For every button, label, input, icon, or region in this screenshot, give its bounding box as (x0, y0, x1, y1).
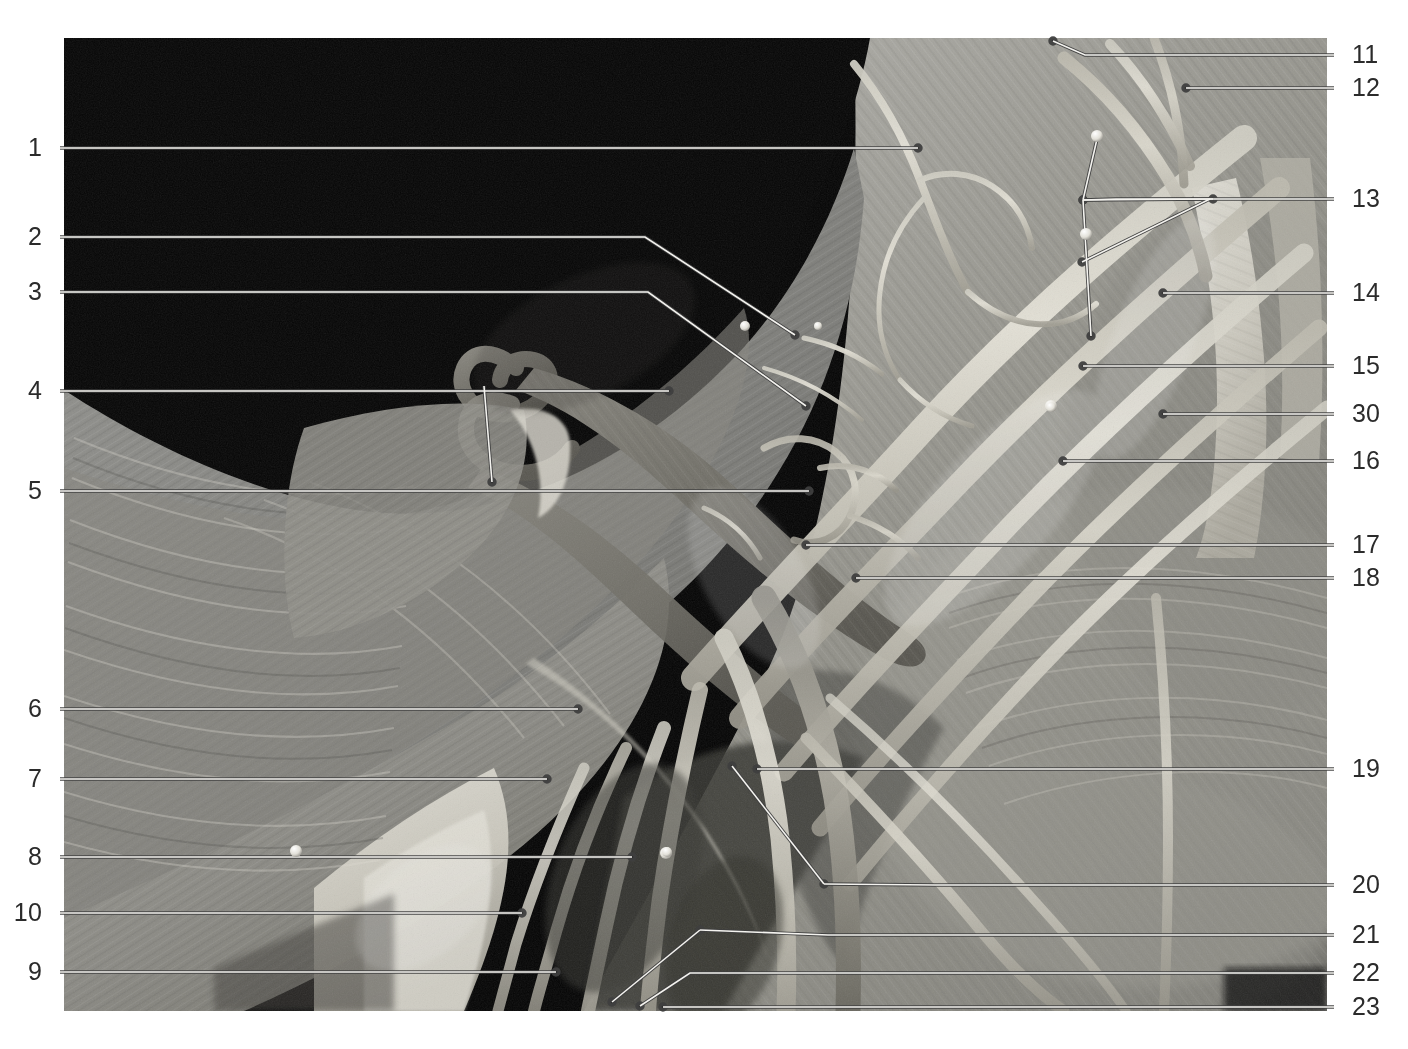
label-14: 14 (1352, 280, 1380, 305)
label-17: 17 (1352, 532, 1380, 557)
label-9: 9 (28, 959, 42, 984)
label-22: 22 (1352, 960, 1380, 985)
label-2: 2 (28, 224, 42, 249)
anatomical-plate: 12345678109 1112131415301617181920212223 (0, 0, 1408, 1049)
photo-content (64, 38, 1327, 1011)
label-1: 1 (28, 135, 42, 160)
label-7: 7 (28, 766, 42, 791)
label-15: 15 (1352, 353, 1380, 378)
label-10: 10 (14, 900, 42, 925)
label-12: 12 (1352, 75, 1380, 100)
label-5: 5 (28, 478, 42, 503)
label-3: 3 (28, 279, 42, 304)
label-13: 13 (1352, 186, 1380, 211)
label-11: 11 (1352, 42, 1378, 67)
dissection-photograph (64, 38, 1327, 1011)
label-21: 21 (1352, 922, 1380, 947)
label-20: 20 (1352, 872, 1380, 897)
label-23: 23 (1352, 994, 1380, 1019)
label-4: 4 (28, 378, 42, 403)
label-6: 6 (28, 696, 42, 721)
label-18: 18 (1352, 565, 1380, 590)
label-30: 30 (1352, 401, 1380, 426)
label-19: 19 (1352, 756, 1380, 781)
label-8: 8 (28, 844, 42, 869)
label-16: 16 (1352, 448, 1380, 473)
